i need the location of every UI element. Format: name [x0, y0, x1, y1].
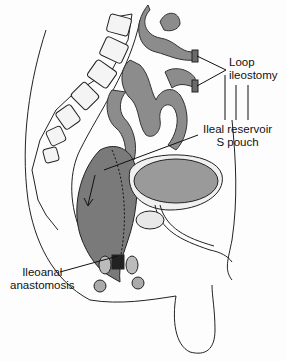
- sacral-vertebrae: [42, 13, 132, 163]
- label-ileoanal-anastomosis: Ileoanal anastomosis: [10, 266, 75, 292]
- bladder: [134, 159, 218, 203]
- anatomy-illustration: [0, 0, 286, 361]
- prostate: [136, 211, 164, 229]
- penis-outline: [174, 285, 215, 353]
- label-ileal-reservoir: Ileal reservoir S pouch: [203, 123, 272, 149]
- label-pouch-line1: Ileal reservoir: [203, 123, 272, 136]
- urethra: [155, 205, 232, 262]
- urethra-2: [160, 205, 214, 246]
- back-outline: [25, 30, 90, 300]
- label-anast-line1: Ileoanal: [10, 266, 75, 279]
- diagram-canvas: Loop ileostomy Ileal reservoir S pouch I…: [0, 0, 286, 361]
- perineum-outline: [90, 296, 176, 302]
- label-pouch-line2: S pouch: [203, 136, 272, 149]
- label-loop-line1: Loop: [229, 56, 278, 69]
- label-anast-line2: anastomosis: [10, 279, 75, 292]
- label-loop-ileostomy: Loop ileostomy: [229, 56, 278, 82]
- label-loop-line2: ileostomy: [229, 69, 278, 82]
